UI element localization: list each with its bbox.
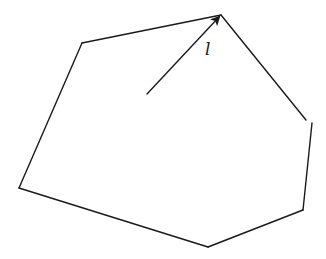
edge-bottom-to-bottomright bbox=[208, 210, 303, 247]
edge-apex-to-right bbox=[221, 15, 306, 120]
edge-bottomright-to-right bbox=[303, 123, 312, 210]
edge-topleft-to-left bbox=[19, 43, 82, 188]
edge-left-to-bottom bbox=[19, 188, 208, 247]
vector-label-l: l bbox=[205, 39, 210, 59]
edge-apex-to-topleft bbox=[82, 15, 221, 43]
polygon-diagram: l bbox=[0, 0, 326, 259]
